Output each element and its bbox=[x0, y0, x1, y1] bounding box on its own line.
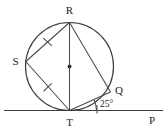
geometry-figure: R S T Q P 25° bbox=[0, 0, 165, 137]
point-label-t: T bbox=[66, 116, 73, 128]
geometry-canvas: R S T Q P 25° bbox=[0, 0, 165, 137]
point-label-p: P bbox=[149, 114, 155, 126]
point-label-q: Q bbox=[115, 84, 123, 96]
point-label-s: S bbox=[12, 55, 18, 67]
chord-r-q bbox=[70, 23, 111, 93]
chord-s-t bbox=[26, 62, 70, 111]
tick-mark-chord-s-t bbox=[44, 83, 52, 91]
angle-label-25-degrees: 25° bbox=[100, 99, 114, 109]
point-label-r: R bbox=[66, 4, 74, 16]
